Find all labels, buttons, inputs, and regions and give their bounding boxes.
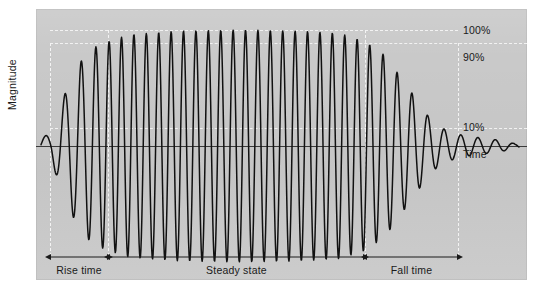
- boundary-line-steady-end: [365, 30, 366, 256]
- waveform-figure: 100% 90% 10% Time Magnitude Rise time St…: [0, 0, 538, 294]
- level-10-line: [50, 128, 527, 129]
- time-axis-line: [36, 146, 527, 147]
- chart-panel: [36, 9, 527, 280]
- level-10-label: 10%: [463, 121, 485, 133]
- panel-texture: [36, 9, 527, 280]
- boundary-line-rise-end: [108, 30, 109, 256]
- rise-time-label: Rise time: [50, 264, 108, 276]
- steady-state-label: Steady state: [108, 264, 365, 276]
- level-90-line: [50, 43, 527, 44]
- fall-time-label: Fall time: [365, 264, 458, 276]
- magnitude-axis-label: Magnitude: [6, 94, 18, 110]
- time-axis-label: Time: [463, 148, 487, 160]
- level-100-line: [50, 30, 458, 31]
- boundary-line-fall-end: [458, 43, 459, 256]
- boundary-line-start: [50, 43, 51, 256]
- level-100-label: 100%: [463, 24, 491, 36]
- level-90-label: 90%: [463, 51, 485, 63]
